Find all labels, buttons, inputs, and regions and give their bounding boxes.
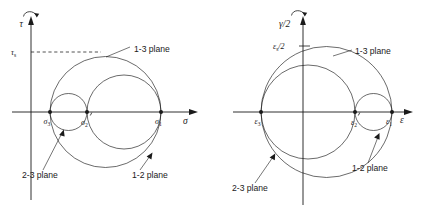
point-eps1-marker bbox=[390, 110, 394, 114]
point-eps3-label: ε3 bbox=[255, 117, 261, 127]
annotation-1-3-plane-text: 1-3 plane bbox=[134, 44, 170, 54]
max-shear-stress-marker: τs bbox=[11, 48, 101, 58]
principal-strain-points: ε3 ε2 ε1 bbox=[255, 110, 395, 128]
strain-diagram-panel: γ/2 ε εs/2 ε3 bbox=[215, 0, 429, 217]
point-sigma2-prime-mark bbox=[90, 113, 92, 116]
annotation-1-3-plane-leader bbox=[106, 47, 130, 57]
annotation-1-2-plane: 1-2 plane bbox=[132, 153, 168, 181]
point-sigma2-label: σ2 bbox=[81, 118, 88, 128]
tau-rotation-arrowhead bbox=[34, 13, 39, 18]
strain-diagram-svg: γ/2 ε εs/2 ε3 bbox=[215, 0, 429, 217]
point-eps1-label: ε1 bbox=[386, 117, 392, 127]
annotation-1-2-plane-text: 1-2 plane bbox=[132, 170, 168, 180]
point-sigma2-marker bbox=[85, 110, 89, 114]
annotation-2-3-plane: 2-3 plane bbox=[232, 154, 275, 194]
annotation-2-3-plane-text: 2-3 plane bbox=[232, 183, 268, 193]
point-sigma1-marker bbox=[159, 110, 163, 114]
annotation-2-3-plane-leader bbox=[255, 157, 273, 183]
annotation-1-3-plane: 1-3 plane bbox=[333, 46, 391, 56]
annotation-2-3-plane-text: 2-3 plane bbox=[22, 170, 58, 180]
point-eps2-prime-mark bbox=[358, 113, 360, 116]
gamma-rotation-arrowhead bbox=[302, 12, 307, 17]
annotation-1-2-plane-leader bbox=[140, 156, 150, 170]
sigma-axis-label: σ bbox=[183, 116, 188, 126]
sigma-axis-arrowhead bbox=[189, 109, 198, 115]
max-shear-strain-marker: εs/2 bbox=[273, 42, 310, 52]
annotation-1-2-plane: 1-2 plane bbox=[352, 133, 388, 173]
annotation-1-3-plane: 1-3 plane bbox=[106, 44, 170, 57]
tau-axis-arrowhead bbox=[28, 16, 34, 25]
gamma-axis-label: γ/2 bbox=[279, 19, 290, 29]
gamma-half-axis: γ/2 bbox=[279, 11, 307, 205]
mohr-circles-figure: τ σ τs σ3 bbox=[0, 0, 429, 217]
principal-stress-points: σ3 σ2 σ1 bbox=[44, 110, 164, 128]
annotation-1-2-plane-arrowhead bbox=[147, 153, 153, 160]
stress-diagram-svg: τ σ τs σ3 bbox=[0, 0, 215, 217]
tau-axis-label: τ bbox=[20, 19, 24, 29]
annotation-1-2-plane-text: 1-2 plane bbox=[352, 163, 388, 173]
gamma-rotation-arrow bbox=[292, 11, 305, 16]
point-sigma3-marker bbox=[48, 110, 52, 114]
annotation-2-3-plane: 2-3 plane bbox=[22, 129, 65, 180]
tau-s-label: τs bbox=[11, 48, 16, 58]
annotation-1-3-plane-leader bbox=[333, 50, 352, 56]
point-eps2-marker bbox=[353, 110, 357, 114]
gamma-axis-arrowhead bbox=[300, 16, 306, 25]
point-eps3-marker bbox=[259, 110, 263, 114]
annotation-1-3-plane-text: 1-3 plane bbox=[355, 46, 391, 56]
point-eps2-label: ε2 bbox=[351, 118, 357, 128]
sigma-axis: σ bbox=[12, 109, 198, 126]
eps-s-half-label: εs/2 bbox=[273, 42, 285, 52]
point-sigma3-label: σ3 bbox=[44, 117, 51, 127]
epsilon-axis-arrowhead bbox=[404, 109, 413, 115]
tau-rotation-arrow bbox=[24, 12, 37, 17]
epsilon-axis-label: ε bbox=[400, 115, 404, 125]
stress-diagram-panel: τ σ τs σ3 bbox=[0, 0, 215, 217]
annotation-2-3-plane-arrowhead bbox=[270, 154, 276, 161]
annotation-2-3-plane-arrowhead bbox=[59, 129, 64, 136]
annotation-2-3-plane-leader bbox=[43, 133, 62, 170]
annotation-1-2-plane-leader bbox=[368, 137, 378, 163]
annotation-1-2-plane-arrowhead bbox=[374, 133, 380, 140]
